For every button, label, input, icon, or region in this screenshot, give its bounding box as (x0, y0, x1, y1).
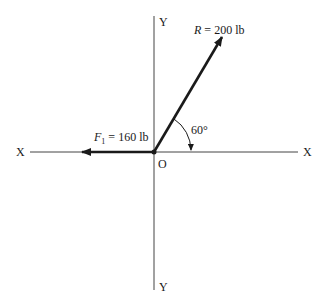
origin-label: O (158, 158, 167, 170)
r-label: R = 200 lb (194, 24, 244, 36)
r-equals: = (204, 23, 211, 37)
y-axis-top-label: Y (159, 16, 168, 28)
force-diagram (0, 0, 330, 302)
f1-value: 160 lb (118, 130, 148, 144)
f1-equals: = (108, 130, 115, 144)
r-symbol: R (194, 23, 201, 37)
f1-label: F1 = 160 lb (94, 131, 148, 146)
f1-subscript: 1 (101, 137, 105, 146)
x-axis-left-label: X (16, 146, 25, 158)
angle-arc (174, 119, 191, 150)
angle-label: 60° (191, 124, 208, 136)
r-value: 200 lb (214, 23, 244, 37)
origin-point (152, 150, 157, 155)
y-axis-bottom-label: Y (159, 281, 168, 293)
x-axis-right-label: X (303, 146, 312, 158)
